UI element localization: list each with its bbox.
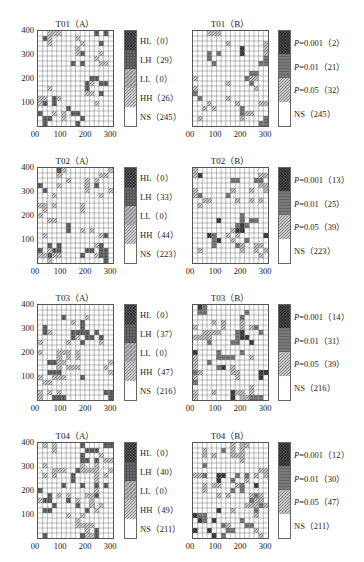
legend-label: P=0.05（39） [294, 357, 345, 369]
legend-text: =0.05（39） [299, 222, 345, 232]
legend-label: HH（47） [140, 365, 179, 377]
legend-label: P=0.01（30） [294, 472, 345, 484]
panel-t03a: T03（A）40030020010000100200300HL（0）LH（37）… [0, 274, 182, 414]
cluster-grid [37, 442, 114, 539]
legend-label: P=0.05（32） [294, 83, 345, 95]
y-tick: 100 [12, 371, 34, 381]
y-tick: 400 [12, 299, 34, 309]
legend-label: HL（0） [140, 34, 174, 46]
legend-text: =0.001（13） [299, 175, 349, 185]
legend-label: P=0.05（39） [294, 220, 345, 232]
x-tick: 200 [73, 541, 97, 551]
panel-t01a: T01（A）40030020010000100200300HL（0）LH（29）… [0, 0, 182, 140]
legend-bar [278, 304, 291, 401]
legend-text: =0.01（21） [299, 62, 345, 72]
panel-t04b: T04（B）00100200300P=0.001（12）P=0.01（30）P=… [182, 412, 364, 552]
cluster-grid [37, 304, 114, 401]
legend-bar [278, 30, 291, 127]
panel-t04a: T04（A）40030020010000100200300HL（0）LH（40）… [0, 412, 182, 552]
legend-bar [124, 304, 137, 401]
y-tick: 100 [12, 234, 34, 244]
legend-bar [278, 442, 291, 539]
cluster-grid [37, 167, 114, 264]
legend-label: P=0.001（13） [294, 173, 350, 185]
legend-label: NS（245） [294, 107, 336, 119]
x-tick: 300 [98, 541, 122, 551]
legend-text: =0.01（25） [299, 199, 345, 209]
y-tick: 400 [12, 25, 34, 35]
legend-text: =0.05（32） [299, 85, 345, 95]
legend-label: HH（26） [140, 91, 179, 103]
y-tick: 300 [12, 49, 34, 59]
legend-label: LL（0） [140, 346, 173, 358]
legend-label: P=0.001（2） [294, 36, 345, 48]
x-tick: 00 [178, 541, 202, 551]
panel-title: T01（B） [190, 17, 270, 30]
y-tick: 300 [12, 323, 34, 333]
cluster-grid [192, 304, 269, 401]
legend-label: P=0.05（47） [294, 495, 345, 507]
legend-label: LL（0） [140, 209, 173, 221]
legend-label: HH（49） [140, 503, 179, 515]
legend-label: P=0.01（31） [294, 334, 345, 346]
y-tick: 300 [12, 186, 34, 196]
panel-title: T02（A） [35, 154, 115, 167]
panel-title: T04（B） [190, 429, 270, 442]
y-tick: 100 [12, 97, 34, 107]
legend-text: =0.001（2） [299, 38, 345, 48]
legend-label: P=0.001（14） [294, 310, 350, 322]
y-tick: 100 [12, 509, 34, 519]
y-tick: 400 [12, 437, 34, 447]
legend-label: HH（44） [140, 228, 179, 240]
legend-label: HL（0） [140, 308, 174, 320]
legend-label: NS（216） [294, 381, 336, 393]
legend-text: =0.001（14） [299, 312, 349, 322]
x-tick: 100 [203, 541, 227, 551]
panel-title: T01（A） [35, 17, 115, 30]
legend-label: P=0.01（25） [294, 197, 345, 209]
legend-label: NS（245） [140, 110, 182, 122]
panel-t02b: T02（B）00100200300P=0.001（13）P=0.01（25）P=… [182, 137, 364, 277]
x-tick: 200 [228, 541, 252, 551]
legend-bar [278, 167, 291, 264]
y-tick: 300 [12, 461, 34, 471]
legend-label: P=0.001（12） [294, 448, 350, 460]
legend-label: NS（211） [294, 519, 335, 531]
y-tick: 200 [12, 210, 34, 220]
legend-label: NS（223） [294, 244, 336, 256]
cluster-grid [192, 442, 269, 539]
y-tick: 200 [12, 485, 34, 495]
legend-label: NS（216） [140, 384, 182, 396]
legend-label: LH（29） [140, 53, 178, 65]
cluster-grid [192, 30, 269, 127]
legend-label: LH（37） [140, 327, 178, 339]
y-tick: 200 [12, 73, 34, 83]
legend-bar [124, 442, 137, 539]
legend-label: LL（0） [140, 72, 173, 84]
legend-label: P=0.01（21） [294, 60, 345, 72]
legend-label: NS（223） [140, 247, 182, 259]
legend-label: HL（0） [140, 171, 174, 183]
legend-text: =0.05（47） [299, 497, 345, 507]
legend-label: LH（40） [140, 465, 178, 477]
legend-text: =0.001（12） [299, 450, 349, 460]
y-tick: 400 [12, 162, 34, 172]
x-tick: 100 [48, 541, 72, 551]
x-tick: 300 [253, 541, 277, 551]
legend-text: =0.01（30） [299, 474, 345, 484]
legend-text: =0.01（31） [299, 336, 345, 346]
legend-bar [124, 167, 137, 264]
panel-title: T02（B） [190, 154, 270, 167]
legend-bar [124, 30, 137, 127]
panel-title: T03（A） [35, 291, 115, 304]
panel-t02a: T02（A）40030020010000100200300HL（0）LH（33）… [0, 137, 182, 277]
cluster-grid [37, 30, 114, 127]
legend-label: LL（0） [140, 484, 173, 496]
panel-title: T03（B） [190, 291, 270, 304]
legend-label: NS（211） [140, 522, 181, 534]
y-tick: 200 [12, 347, 34, 357]
legend-label: LH（33） [140, 190, 178, 202]
panel-t03b: T03（B）00100200300P=0.001（14）P=0.01（31）P=… [182, 274, 364, 414]
legend-label: HL（0） [140, 446, 174, 458]
x-tick: 00 [23, 541, 47, 551]
